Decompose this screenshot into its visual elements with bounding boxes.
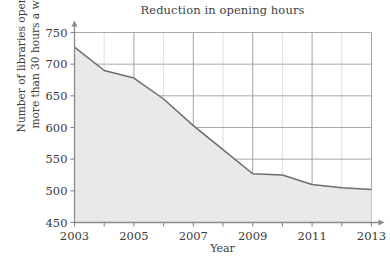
y-tick-label: 650 <box>46 89 68 103</box>
x-tick-label: 2007 <box>179 229 208 243</box>
y-tick-label: 550 <box>46 152 68 166</box>
y-tick-label: 500 <box>46 184 68 198</box>
y-tick-label: 450 <box>46 216 68 230</box>
chart-figure: Reduction in opening hours Number of lib… <box>0 0 390 261</box>
x-tick-label: 2013 <box>357 229 386 243</box>
x-tick-label: 2005 <box>119 229 148 243</box>
y-tick-label: 750 <box>46 26 68 40</box>
y-tick-label: 600 <box>46 121 68 135</box>
y-axis-tick-labels: 450500550600650700750 <box>46 26 68 230</box>
x-tick-label: 2003 <box>60 229 89 243</box>
x-tick-label: 2009 <box>238 229 267 243</box>
x-tick-label: 2011 <box>297 229 326 243</box>
plot-area: 450500550600650700750 200320052007200920… <box>0 0 390 261</box>
x-axis-tick-labels: 200320052007200920112013 <box>60 229 386 243</box>
y-tick-label: 700 <box>46 57 68 71</box>
